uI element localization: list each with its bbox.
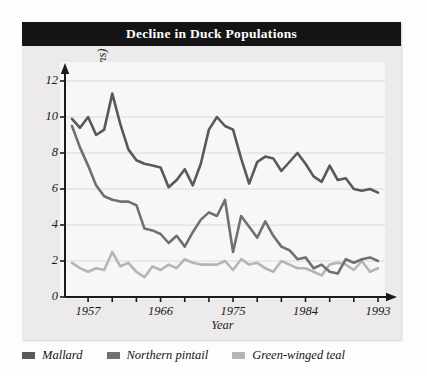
y-axis-arrow-icon <box>61 63 69 74</box>
chart-figure: Decline in Duck Populations Population s… <box>0 0 427 376</box>
x-axis-arrow-icon <box>386 293 397 301</box>
axes-overlay <box>0 0 427 376</box>
